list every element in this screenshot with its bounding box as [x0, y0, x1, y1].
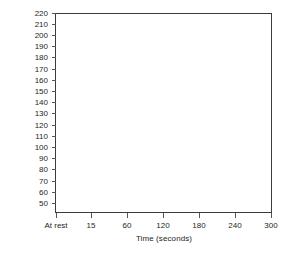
- x-tick-label: At rest: [44, 220, 67, 231]
- y-tick: 180: [26, 52, 56, 63]
- x-tick-mark: [163, 213, 164, 218]
- x-tick-mark: [199, 213, 200, 218]
- y-tick: 120: [26, 120, 56, 131]
- y-tick: 150: [26, 86, 56, 97]
- x-tick-mark: [91, 213, 92, 218]
- y-tick: 220: [26, 8, 56, 19]
- y-tick-label: 180: [35, 52, 48, 63]
- y-tick-label: 120: [35, 120, 48, 131]
- chart-container: Beats per Minute 220 210 200 190 180 170…: [0, 0, 288, 262]
- y-tick: 190: [26, 41, 56, 52]
- y-tick: 90: [26, 153, 56, 164]
- y-tick: 70: [26, 176, 56, 187]
- y-tick: 210: [26, 19, 56, 30]
- y-tick: 170: [26, 64, 56, 75]
- y-tick-label: 210: [35, 19, 48, 30]
- x-tick-label: 300: [264, 220, 277, 231]
- x-tick-label: 180: [192, 220, 205, 231]
- y-tick: 200: [26, 30, 56, 41]
- x-tick-mark: [271, 213, 272, 218]
- x-tick-label: 15: [87, 220, 96, 231]
- x-tick-mark: [56, 213, 57, 218]
- y-tick-label: 220: [35, 8, 48, 19]
- y-tick-label: 160: [35, 75, 48, 86]
- y-tick-label: 170: [35, 64, 48, 75]
- y-tick: 110: [26, 131, 56, 142]
- y-tick-label: 130: [35, 108, 48, 119]
- y-tick: 130: [26, 108, 56, 119]
- y-tick: 140: [26, 97, 56, 108]
- y-tick: 80: [26, 164, 56, 175]
- y-tick-label: 80: [39, 164, 48, 175]
- x-axis-title: Time (seconds): [55, 234, 273, 243]
- y-tick: 160: [26, 75, 56, 86]
- y-tick-label: 100: [35, 142, 48, 153]
- x-tick-label: 60: [123, 220, 132, 231]
- y-tick-label: 150: [35, 86, 48, 97]
- y-tick: 60: [26, 187, 56, 198]
- y-tick-label: 190: [35, 41, 48, 52]
- y-tick-label: 110: [35, 131, 48, 142]
- x-tick-mark: [127, 213, 128, 218]
- y-tick-label: 200: [35, 30, 48, 41]
- y-tick: 50: [26, 198, 56, 209]
- y-tick: 100: [26, 142, 56, 153]
- x-tick-label: 120: [156, 220, 169, 231]
- y-tick-label: 60: [39, 187, 48, 198]
- x-tick-mark: [235, 213, 236, 218]
- x-tick-label: 240: [228, 220, 241, 231]
- y-tick-label: 90: [39, 153, 48, 164]
- y-tick-label: 140: [35, 97, 48, 108]
- plot-area: [55, 13, 272, 213]
- y-tick-label: 50: [39, 198, 48, 209]
- y-tick-label: 70: [39, 176, 48, 187]
